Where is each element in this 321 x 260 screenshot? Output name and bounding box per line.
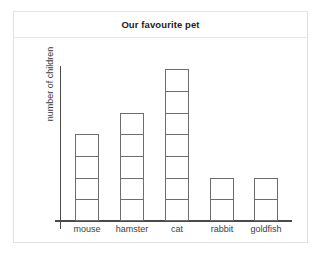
- bar-unit-cell: [120, 113, 144, 135]
- x-axis-tick-labels: mousehamstercatrabbitgoldfish: [14, 224, 307, 242]
- plot-area: number of children mousehamstercatrabbit…: [14, 39, 307, 242]
- chart-card: Our favourite pet number of children mou…: [13, 11, 308, 243]
- chart-title: Our favourite pet: [121, 19, 199, 30]
- bar-unit-cell: [75, 156, 99, 178]
- x-tick-label-rabbit: rabbit: [211, 224, 234, 234]
- bar-unit-cell: [165, 113, 189, 135]
- bar-unit-cell: [120, 178, 144, 200]
- bar-unit-cell: [254, 178, 278, 200]
- bar-mouse: [75, 134, 99, 221]
- bar-cat: [165, 69, 189, 221]
- x-tick-label-cat: cat: [171, 224, 183, 234]
- bar-unit-cell: [165, 69, 189, 91]
- bar-hamster: [120, 113, 144, 221]
- bar-unit-cell: [165, 199, 189, 221]
- bar-unit-cell: [75, 134, 99, 156]
- bar-unit-cell: [165, 134, 189, 156]
- bar-unit-cell: [120, 199, 144, 221]
- screenshot-root: Our favourite pet number of children mou…: [0, 0, 321, 260]
- bar-unit-cell: [210, 178, 234, 200]
- chart-title-bar: Our favourite pet: [14, 12, 307, 38]
- x-tick-label-mouse: mouse: [73, 224, 100, 234]
- bar-series: [14, 39, 307, 221]
- x-tick-label-goldfish: goldfish: [250, 224, 281, 234]
- bar-unit-cell: [254, 199, 278, 221]
- x-tick-label-hamster: hamster: [116, 224, 149, 234]
- bar-unit-cell: [165, 156, 189, 178]
- bar-unit-cell: [120, 134, 144, 156]
- bar-unit-cell: [165, 91, 189, 113]
- bar-unit-cell: [120, 156, 144, 178]
- bar-rabbit: [210, 178, 234, 221]
- bar-unit-cell: [75, 199, 99, 221]
- bar-unit-cell: [210, 199, 234, 221]
- bar-goldfish: [254, 178, 278, 221]
- bar-unit-cell: [75, 178, 99, 200]
- bar-unit-cell: [165, 178, 189, 200]
